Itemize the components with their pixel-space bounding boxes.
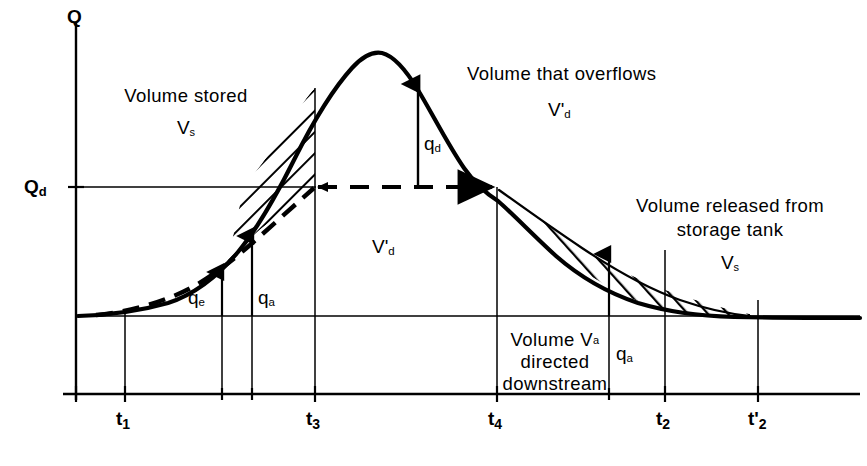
qa-right-sub: a xyxy=(627,352,633,364)
annotation-volume-released-line2: storage tank xyxy=(610,220,850,241)
t1-sub: 1 xyxy=(122,416,130,432)
volume-downstream-text-1: Volume V xyxy=(511,329,593,350)
vdm-base: V xyxy=(372,236,385,257)
tick-label-t4: t4 xyxy=(488,408,502,433)
qe-base: q xyxy=(188,287,199,308)
volume-released-text-2: storage tank xyxy=(677,219,784,240)
annotation-vd-prime-mid: V'd xyxy=(372,236,395,258)
tick-label-t2: t2 xyxy=(656,408,670,433)
t2p-sub: 2 xyxy=(759,416,767,432)
qd-sub: d xyxy=(39,184,47,199)
volume-stored-text: Volume stored xyxy=(124,85,247,106)
volume-released-text-1: Volume released from xyxy=(636,195,824,216)
qd-base: Q xyxy=(24,176,39,197)
volume-downstream-text-3: downstream xyxy=(503,373,608,394)
annotation-volume-downstream-line1: Volume Va xyxy=(500,330,610,351)
volume-overflows-text: Volume that overflows xyxy=(467,63,656,84)
label-qa-right: qa xyxy=(616,343,633,365)
plateau-left-arrow-icon xyxy=(317,182,328,192)
y-axis-threshold-label: Qd xyxy=(24,176,47,200)
qa-right-base: q xyxy=(616,343,627,364)
vs-base: V xyxy=(177,117,190,138)
annotation-volume-overflows: Volume that overflows xyxy=(467,64,656,85)
hydrograph-figure: Q Qd Volume stored Vs Volume that overfl… xyxy=(0,0,867,466)
annotation-volume-released-line1: Volume released from xyxy=(610,196,850,217)
qe-sub: e xyxy=(199,296,205,308)
tick-label-t2-prime: t'2 xyxy=(748,408,767,433)
annotation-volume-overflows-symbol: V'd xyxy=(548,99,571,121)
vsr-sub: s xyxy=(734,261,740,273)
annotation-volume-downstream-line2: directed xyxy=(500,352,610,373)
label-qa-left: qa xyxy=(258,287,275,309)
vsr-base: V xyxy=(721,252,734,273)
vdm-sub: d xyxy=(388,245,394,257)
annotation-volume-stored-symbol: Vs xyxy=(102,117,270,138)
qa-left-base: q xyxy=(258,287,269,308)
vdp-sub: d xyxy=(564,108,570,120)
t2-sub: 2 xyxy=(662,416,670,432)
annotation-volume-stored: Volume stored xyxy=(102,86,270,107)
qd-arrow-base: q xyxy=(424,133,435,154)
t3-sub: 3 xyxy=(312,416,320,432)
vdp-base: V xyxy=(548,99,561,120)
va-sub: a xyxy=(593,334,600,346)
vs-sub: s xyxy=(190,126,196,138)
tick-label-t3: t3 xyxy=(306,408,320,433)
y-axis-label: Q xyxy=(67,6,82,27)
t4-sub: 4 xyxy=(494,416,502,432)
qa-left-sub: a xyxy=(269,296,275,308)
label-qd: qd xyxy=(424,133,441,155)
annotation-volume-released-symbol: Vs xyxy=(610,252,850,273)
label-qe: qe xyxy=(188,287,205,309)
annotation-volume-downstream-line3: downstream xyxy=(500,374,610,395)
tick-label-t1: t1 xyxy=(116,408,130,433)
qd-arrow-sub: d xyxy=(435,142,441,154)
volume-downstream-text-2: directed xyxy=(520,351,589,372)
